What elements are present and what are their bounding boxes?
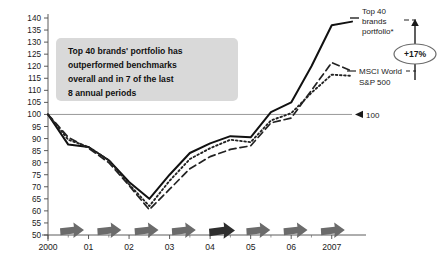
x-tick-label: 04	[205, 242, 215, 252]
y-tick-label: 55	[32, 219, 42, 228]
y-tick-label: 90	[32, 135, 42, 144]
x-tick-label: 2000	[38, 242, 57, 252]
y-tick-label: 85	[32, 147, 42, 156]
y-tick-label: 50	[32, 231, 42, 240]
legend-sp-label: S&P 500	[359, 78, 391, 87]
y-tick-label: 110	[28, 86, 41, 95]
legend-top40-line2: brands	[362, 17, 386, 26]
y-tick-label: 80	[32, 159, 42, 168]
y-tick-label: 75	[32, 171, 42, 180]
brand-performance-chart: 1401351301251201151101051009590858075706…	[0, 0, 446, 267]
legend-top40-line3: portfolio*	[362, 27, 394, 36]
y-tick-label: 65	[32, 195, 42, 204]
y-tick-label: 120	[27, 62, 41, 71]
x-tick-label: 03	[165, 242, 175, 252]
callout-box: Top 40 brands' portfolio has outperforme…	[56, 38, 238, 101]
y-tick-label: 105	[27, 98, 41, 107]
legend-top40-line1: Top 40	[362, 7, 387, 16]
x-tick-label: 2007	[322, 242, 341, 252]
callout-line-4: 8 annual periods	[68, 88, 137, 98]
x-tick-label: 06	[286, 242, 296, 252]
callout-line-2: outperformed benchmarks	[68, 60, 177, 70]
y-tick-label: 100	[27, 110, 41, 119]
y-tick-label: 135	[27, 26, 41, 35]
y-tick-label: 60	[32, 207, 42, 216]
chart-svg: 1401351301251201151101051009590858075706…	[0, 0, 446, 267]
callout-line-3: overall and in 7 of the last	[68, 74, 174, 84]
callout-line-1: Top 40 brands' portfolio has	[68, 46, 183, 56]
y-tick-label: 125	[27, 50, 41, 59]
y-tick-label: 140	[27, 14, 41, 23]
x-tick-label: 05	[246, 242, 256, 252]
legend-msci-label: MSCI World	[359, 67, 402, 76]
delta-badge-text: +17%	[404, 49, 427, 59]
x-tick-label: 01	[84, 242, 94, 252]
y-tick-label: 130	[27, 38, 41, 47]
y-tick-label: 95	[32, 123, 42, 132]
y-tick-label: 70	[32, 183, 42, 192]
x-tick-label: 02	[124, 242, 134, 252]
baseline-label: 100	[366, 111, 380, 120]
y-tick-label: 115	[28, 74, 41, 83]
